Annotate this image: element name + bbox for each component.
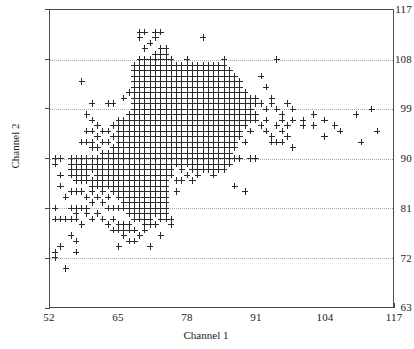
x-tick-label-117: 117 [374,312,414,323]
plot-area [49,9,394,308]
x-tick-label-91: 91 [236,312,276,323]
x-tick-label-78: 78 [167,312,207,323]
y-axis-label: Channel 2 [9,101,21,191]
y-tick-mark-63 [45,308,50,309]
x-axis-label: Channel 1 [0,329,412,341]
x-tick-label-52: 52 [29,312,69,323]
x-tick-label-65: 65 [98,312,138,323]
x-tick-mark-117 [394,303,395,308]
x-tick-label-104: 104 [305,312,345,323]
scatter-points-layer [50,10,393,307]
